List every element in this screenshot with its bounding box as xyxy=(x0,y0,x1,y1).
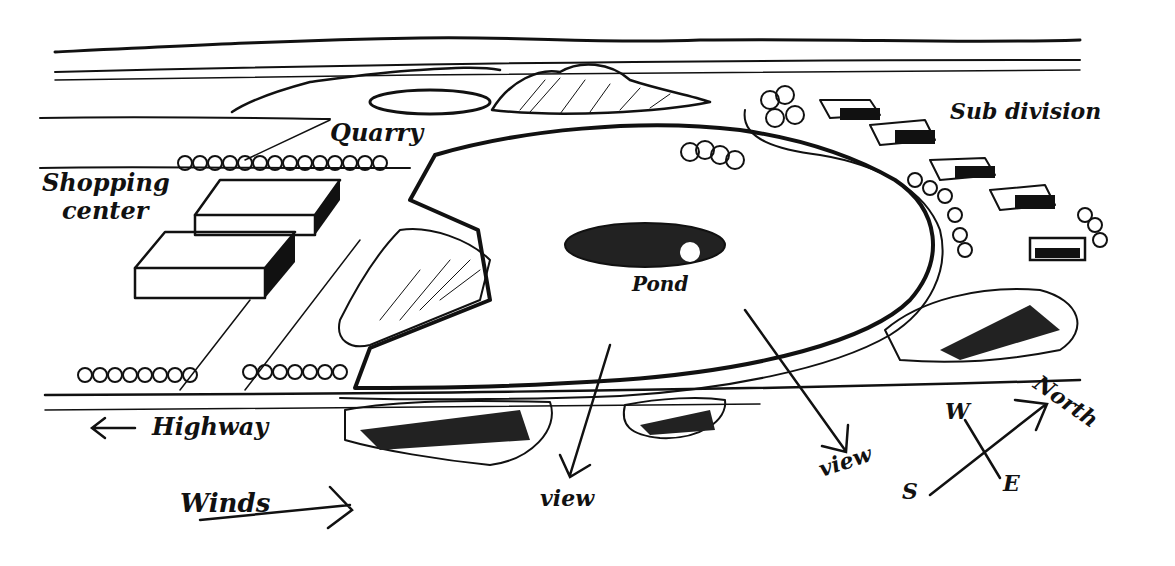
label-pond: Pond xyxy=(632,272,688,296)
label-highway: Highway xyxy=(152,412,268,441)
horizon xyxy=(40,38,1080,168)
label-compass-s: S xyxy=(902,478,918,504)
label-compass-w: W xyxy=(945,398,970,424)
view-arrow-right xyxy=(745,310,848,452)
quarry-hills xyxy=(232,64,710,114)
roads xyxy=(45,120,1080,410)
shopping-center xyxy=(135,180,340,298)
label-winds: Winds xyxy=(180,488,270,518)
label-subdivision: Sub division xyxy=(950,98,1101,124)
pond xyxy=(565,223,725,267)
label-shopping-line2: center xyxy=(62,196,148,225)
label-view-left: view xyxy=(540,485,594,511)
label-shopping-line1: Shopping xyxy=(42,168,170,197)
compass-cross xyxy=(965,420,1000,478)
view-arrow-left xyxy=(560,345,610,477)
woods xyxy=(339,229,1077,465)
label-compass-e: E xyxy=(1003,470,1020,496)
label-quarry: Quarry xyxy=(330,118,423,147)
site-sketch xyxy=(0,0,1175,566)
highway-arrow xyxy=(92,418,135,438)
